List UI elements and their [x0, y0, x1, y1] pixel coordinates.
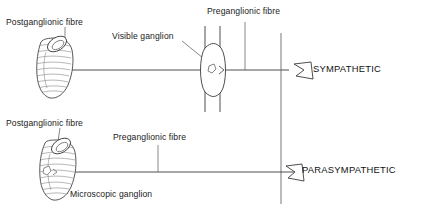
diagram-canvas: [0, 0, 425, 218]
label-postganglionic-fibre-sympathetic: Postganglionic fibre: [6, 18, 83, 27]
visible-ganglion-icon: [201, 26, 226, 112]
sympathetic-flag-icon: [294, 62, 313, 79]
label-preganglionic-fibre-parasympathetic: Preganglionic fibre: [113, 133, 186, 142]
label-postganglionic-fibre-parasympathetic: Postganglionic fibre: [6, 119, 83, 128]
label-microscopic-ganglion: Microscopic ganglion: [70, 190, 152, 199]
sympathetic-organ-icon: [36, 33, 73, 98]
label-sympathetic-system: SYMPATHETIC: [313, 64, 381, 73]
label-parasympathetic-system: PARASYMPATHETIC: [302, 165, 396, 174]
leader-visible-ganglion: [182, 41, 203, 58]
label-preganglionic-fibre-sympathetic: Preganglionic fibre: [207, 7, 280, 16]
autonomic-nervous-system-diagram: Postganglionic fibre Visible ganglion Pr…: [0, 0, 425, 218]
label-visible-ganglion: Visible ganglion: [112, 32, 174, 41]
